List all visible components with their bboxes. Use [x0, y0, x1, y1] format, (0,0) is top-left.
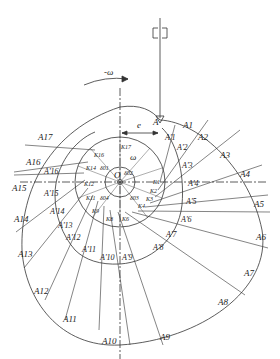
point-K16: K16 [93, 152, 104, 158]
point-A8-prime: A'8 [152, 243, 164, 252]
point-K3: K3 [145, 196, 153, 202]
point-A17: A17 [37, 132, 53, 142]
point-A5-prime: A'5 [185, 197, 197, 206]
point-A13: A13 [17, 249, 33, 259]
point-A15-prime: A'15 [43, 189, 59, 198]
point-K14: K14 [85, 165, 96, 171]
point-K11: K11 [85, 195, 96, 201]
cam-construction-drawing: -ω e ω O A A1 A2 A3 A4 A5 A6 A7 A8 A9 A1… [0, 0, 280, 359]
point-A2: A2 [197, 132, 208, 142]
point-K4: K4 [137, 203, 145, 209]
point-A6: A6 [255, 232, 266, 242]
tangent-lines [14, 120, 270, 345]
center-label: O [114, 170, 121, 180]
angle-delta03: δ03 [130, 195, 139, 201]
point-A5: A5 [253, 199, 264, 209]
offset-label: e [137, 120, 141, 130]
point-A11: A11 [62, 314, 77, 324]
point-A3-prime: A'3 [181, 161, 193, 170]
angle-delta02: δ02 [124, 170, 133, 176]
point-A16-prime: A'16 [43, 167, 59, 176]
point-A11-prime: A'11 [81, 245, 96, 254]
point-A12: A12 [33, 286, 49, 296]
point-A7: A7 [243, 268, 254, 278]
point-K6: K6 [121, 216, 129, 222]
point-A12-prime: A'12 [65, 233, 81, 242]
angle-delta04: δ04 [100, 195, 109, 201]
point-K1: K1 [152, 179, 160, 185]
point-A7-prime: A'7 [165, 230, 178, 239]
point-A4-prime: A'4 [187, 179, 199, 188]
point-A9: A9 [159, 332, 170, 342]
point-A: A [152, 117, 159, 127]
point-A15: A15 [11, 183, 27, 193]
point-A8: A8 [217, 297, 228, 307]
minus-omega-label: -ω [104, 67, 113, 77]
point-K17: K17 [120, 144, 132, 150]
point-K8: K8 [105, 216, 113, 222]
omega-label: ω [130, 152, 136, 162]
point-A4: A4 [239, 169, 250, 179]
point-A6-prime: A'6 [180, 215, 192, 224]
point-A14-prime: A'14 [49, 207, 65, 216]
point-A16: A16 [25, 157, 41, 167]
point-A3: A3 [219, 150, 230, 160]
point-K9: K9 [91, 208, 99, 214]
point-A14: A14 [13, 214, 29, 224]
point-A10: A10 [101, 336, 117, 346]
cam-diagram: -ω e ω O A A1 A2 A3 A4 A5 A6 A7 A8 A9 A1… [0, 0, 280, 359]
point-A13-prime: A'13 [57, 221, 73, 230]
point-A1-prime: A'1 [164, 133, 176, 142]
angle-delta01: δ01 [100, 165, 109, 171]
minus-omega-arrow-icon [84, 78, 128, 85]
point-A10-prime: A'10 [99, 253, 115, 262]
point-A1: A1 [182, 120, 193, 130]
point-A9-prime: A'9 [121, 253, 133, 262]
point-K2: K2 [149, 188, 157, 194]
point-K12: K12 [83, 181, 94, 187]
point-A2-prime: A'2 [176, 143, 188, 152]
